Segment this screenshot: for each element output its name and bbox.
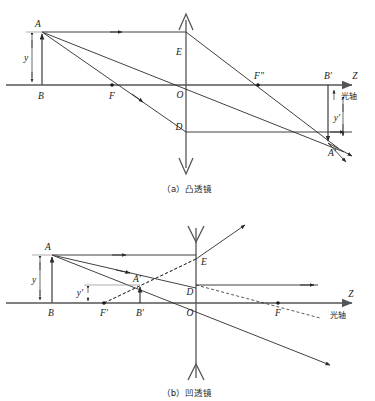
point-label-Ap-a: A′ xyxy=(327,148,337,158)
focal-point-dot-Fp-b xyxy=(102,301,106,305)
point-label-B-a: B xyxy=(38,91,44,101)
point-label-D-a: D xyxy=(175,122,183,132)
point-label-F-b: F xyxy=(274,308,281,318)
point-label-E-b: E xyxy=(200,257,207,267)
point-label-D-b: D xyxy=(186,287,194,297)
focal-point-dot-F-a xyxy=(110,83,114,87)
dim-label-y-b: y xyxy=(31,275,37,285)
dim-label-yp-a: y′ xyxy=(333,113,341,123)
focal-point-dot-F2-a xyxy=(256,83,260,87)
caption-convex: （a）凸透镜 xyxy=(162,184,212,194)
panel-concave-lens: A B F′ A′ B′ O D E F Z 光轴 y y′ （b）凹透镜 xyxy=(0,215,375,401)
point-label-Bp-b: B′ xyxy=(136,308,145,318)
point-label-Fp-b: F′ xyxy=(99,308,109,318)
caption-concave: （b）凹透镜 xyxy=(162,388,212,398)
point-label-E-a: E xyxy=(175,47,182,57)
point-label-B-b: B xyxy=(48,308,54,318)
optics-figure: A B F O E D F″ B′ A′ Z 光轴 y y′ （a）凸透镜 xyxy=(0,0,375,401)
ray-through-front-focus-a xyxy=(42,32,186,132)
point-label-Ap-b: A′ xyxy=(132,274,142,284)
point-label-F2-a: F″ xyxy=(253,71,265,81)
optical-axis-label-b: 光轴 xyxy=(330,310,346,320)
focal-point-dot-F-b xyxy=(276,301,280,305)
ray-diverged-upward-b xyxy=(196,225,245,259)
ray-through-center-a xyxy=(42,32,344,152)
point-label-O-b: O xyxy=(187,308,194,318)
panel-convex-lens: A B F O E D F″ B′ A′ Z 光轴 y y′ （a）凸透镜 xyxy=(0,0,375,200)
ray-through-rear-focus-a xyxy=(186,32,338,148)
dim-label-y-a: y xyxy=(23,53,29,63)
point-label-A-a: A xyxy=(34,19,41,29)
ray-front-focus-arrow-a xyxy=(132,94,143,102)
point-label-Bp-a: B′ xyxy=(324,71,333,81)
optical-axis-label-a: 光轴 xyxy=(341,91,357,101)
ray-rear-focus-arrow-b xyxy=(116,270,130,273)
point-label-O-a: O xyxy=(177,90,184,100)
axis-label-Z-a: Z xyxy=(352,71,358,81)
point-label-F-a: F xyxy=(108,91,115,101)
ray-virtual-extension-right-b xyxy=(196,285,320,318)
dim-label-yp-b: y′ xyxy=(76,288,84,298)
point-label-A-b: A xyxy=(44,242,51,252)
axis-label-Z-b: Z xyxy=(348,289,354,299)
